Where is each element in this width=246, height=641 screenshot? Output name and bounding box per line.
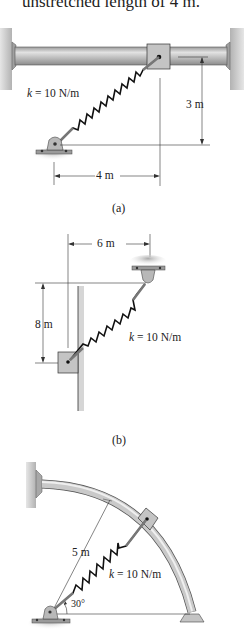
horizontal-rod — [15, 47, 227, 65]
figure-c — [26, 462, 204, 631]
dim-6m-label: 6 m — [97, 237, 115, 249]
left-wall — [0, 28, 12, 90]
dim-4m-label: 4 m — [96, 169, 114, 181]
spring-constant-label-c: k = 10 N/m — [109, 568, 161, 580]
right-foot — [180, 614, 204, 622]
caption-b: (b) — [112, 433, 126, 448]
spring-constant-label-a: k = 10 N/m — [27, 87, 79, 99]
right-wall — [230, 28, 244, 90]
dim-5m-label: 5 m — [72, 546, 90, 558]
figure-a — [0, 28, 244, 186]
caption-a: (a) — [112, 201, 125, 216]
spring-constant-label-b: k = 10 N/m — [129, 331, 181, 343]
ceiling-support-b — [141, 270, 155, 283]
figure-b — [35, 234, 166, 411]
dim-3m-label: 3 m — [186, 98, 204, 110]
angle-30-label: 30° — [71, 598, 85, 609]
dim-8m-label: 8 m — [35, 318, 53, 330]
